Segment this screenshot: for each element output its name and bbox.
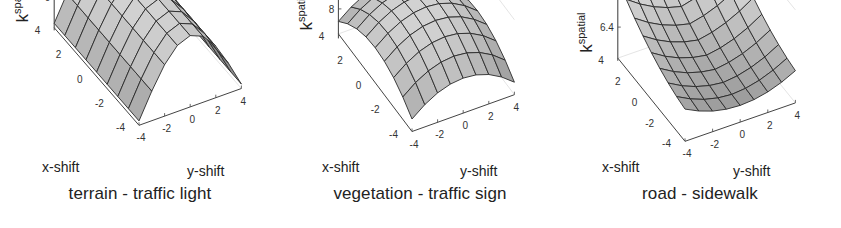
y-tick: -4 [137,132,146,143]
y-axis-label: y-shift [187,163,224,179]
x-tick: -4 [389,129,398,140]
z-tick: 8 [329,4,335,15]
panel-vegetation-traffic-sign: 420-2-4-4-202498×10 -4kspatialx-shifty-s… [280,0,560,228]
x-tick: 2 [337,55,343,66]
z-axis-label: kspatial [575,13,596,53]
z-tick: 6.4 [600,22,614,33]
surface-plot: 420-2-4-4-2024200×10 -4kspatialx-shifty-… [0,0,280,190]
x-tick: 4 [35,25,41,36]
y-tick: 4 [795,110,801,121]
y-tick: 4 [514,102,520,113]
surface-plot: 420-2-4-4-20247.46.4×10 -3kspatialx-shif… [560,0,840,190]
y-tick: -4 [410,139,419,150]
x-tick: 0 [77,74,83,85]
x-axis-label: x-shift [322,159,359,175]
x-tick: -2 [645,118,654,129]
x-tick: -4 [116,122,125,133]
z-tick-labels: 98 [329,0,342,15]
y-tick: -2 [435,129,444,140]
x-tick: 4 [319,31,325,42]
panel-terrain-traffic-light: 420-2-4-4-2024200×10 -4kspatialx-shifty-… [0,0,280,228]
panel-caption: vegetation - traffic sign [280,184,560,204]
y-axis-label: y-shift [733,163,770,179]
y-tick-labels: -4-2024 [137,86,247,144]
y-axis-label: y-shift [460,163,497,179]
x-tick: 0 [632,97,638,108]
surface-patch [218,51,241,84]
y-tick: 4 [241,96,247,107]
surface-mesh [338,0,514,119]
x-tick: -2 [371,104,380,115]
y-tick: 2 [215,105,221,116]
y-tick: 0 [739,129,745,140]
y-tick: -2 [710,139,719,150]
surface-mesh [618,0,796,111]
z-axis-label: kspatial [11,0,32,22]
x-axis-label: x-shift [42,159,79,175]
y-tick: -4 [683,148,692,159]
y-tick: -2 [162,123,171,134]
y-tick: 0 [462,120,468,131]
y-tick: 0 [189,114,195,125]
x-tick: 4 [598,55,604,66]
y-tick: 2 [488,111,494,122]
z-tick: 0 [45,0,51,3]
z-axis-label: kspatial [295,0,316,30]
x-tick: 2 [56,49,62,60]
x-axis-label: x-shift [602,159,639,175]
x-tick: 2 [615,76,621,87]
x-tick: -4 [662,138,671,149]
x-tick: 0 [356,80,362,91]
panel-road-sidewalk: 420-2-4-4-20247.46.4×10 -3kspatialx-shif… [560,0,840,228]
panel-caption: terrain - traffic light [0,184,280,204]
x-tick: -2 [95,98,104,109]
surface-plot: 420-2-4-4-202498×10 -4kspatialx-shifty-s… [280,0,560,190]
y-tick: 2 [767,120,773,131]
panel-caption: road - sidewalk [560,184,840,204]
